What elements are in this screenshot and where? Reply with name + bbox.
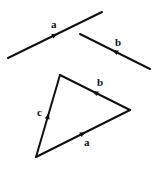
vector-b-label: b [115,36,121,48]
triangle-side-b [60,75,130,110]
triangle-side-a-label: a [84,136,90,148]
triangle-side-b-label: b [97,76,103,88]
triangle-side-c-label: c [37,106,42,118]
triangle-side-a [36,110,130,157]
vector-diagram: a b a b c [0,0,153,172]
diagram-layer [8,12,150,157]
diagram-svg: a b a b c [0,0,153,172]
vector-a-label: a [51,18,57,30]
arrowhead-icon [45,113,50,119]
